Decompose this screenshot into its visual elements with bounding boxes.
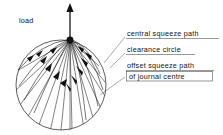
radial-line: [20, 40, 71, 106]
load-arrow-head: [66, 3, 73, 12]
radial-line: [70, 40, 105, 82]
leader-line-offset-squeeze-path: [100, 77, 125, 95]
leader-line-clearance-circle: [110, 53, 125, 68]
radial-line: [70, 40, 72, 130]
annotation-clearance-circle: clearance circle: [127, 45, 181, 54]
leader-line-central-squeeze-path: [104, 37, 125, 63]
figure-canvas: load central squeeze path clearance circ…: [0, 0, 223, 135]
annotation-of-journal-centre: of journal centre: [129, 72, 185, 81]
arrowhead: [27, 55, 34, 62]
annotation-offset-squeeze-path: offset squeeze path: [127, 61, 194, 70]
arrowhead: [36, 50, 43, 57]
annotation-central-squeeze-path: central squeeze path: [127, 29, 199, 38]
journal-centre-hub: [67, 37, 74, 44]
radial-line: [17, 40, 70, 71]
arrowhead: [81, 58, 88, 67]
arrowhead: [53, 71, 60, 80]
radial-line: [70, 40, 84, 126]
central-squeeze-path-group: [16, 40, 106, 130]
load-label: load: [19, 16, 34, 25]
diagram-svg: load central squeeze path clearance circ…: [0, 0, 223, 135]
